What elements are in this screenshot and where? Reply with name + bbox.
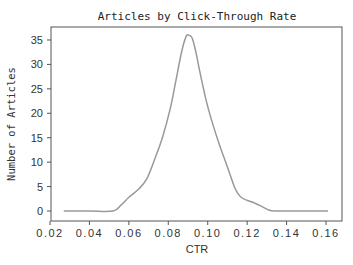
y-axis-label: Number of Articles [5, 67, 17, 181]
x-tick-label: 0.10 [194, 227, 221, 239]
chart: Articles by Click-Through Rate 0.020.040… [0, 0, 353, 265]
x-tick-label: 0.14 [273, 227, 300, 239]
x-axis: 0.020.040.060.080.100.120.140.16 [36, 221, 339, 239]
y-tick-label: 20 [31, 107, 43, 119]
x-tick-label: 0.08 [155, 227, 182, 239]
density-line [64, 35, 328, 212]
y-tick-label: 25 [31, 83, 43, 95]
x-tick-label: 0.16 [312, 227, 339, 239]
y-tick-label: 15 [31, 132, 43, 144]
chart-title: Articles by Click-Through Rate [98, 10, 297, 23]
x-tick-label: 0.02 [36, 227, 63, 239]
y-tick-label: 35 [31, 34, 43, 46]
y-tick-label: 10 [31, 156, 43, 168]
y-tick-label: 30 [31, 58, 43, 70]
y-tick-label: 5 [37, 181, 43, 193]
y-tick-label: 0 [37, 205, 43, 217]
x-tick-label: 0.06 [115, 227, 142, 239]
y-axis: 05101520253035 [31, 34, 51, 217]
x-tick-label: 0.12 [233, 227, 260, 239]
x-tick-label: 0.04 [76, 227, 103, 239]
x-axis-label: CTR [186, 243, 209, 255]
